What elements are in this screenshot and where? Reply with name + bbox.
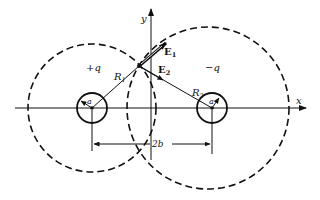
y-axis-label: y <box>140 13 147 24</box>
minus-q-label: −q <box>205 62 220 73</box>
r1-sub: 1 <box>122 76 126 84</box>
e1-sub: 1 <box>172 51 177 59</box>
diagram-canvas: y x +q −q a a R1 R2 E1 E2 2b <box>0 0 320 200</box>
right-radius-label: a <box>209 97 214 106</box>
r2-label: R2 <box>191 87 204 100</box>
e1-label: E1 <box>164 46 176 59</box>
left-radius-label: a <box>87 97 92 106</box>
r1-label: R1 <box>113 71 126 84</box>
x-axis-label: x <box>296 95 302 106</box>
plus-q-label: +q <box>86 62 101 73</box>
r2-sub: 2 <box>199 92 204 100</box>
e2-label: E2 <box>158 64 170 77</box>
e2-sub: 2 <box>166 69 171 77</box>
separation-label: 2b <box>151 139 164 149</box>
